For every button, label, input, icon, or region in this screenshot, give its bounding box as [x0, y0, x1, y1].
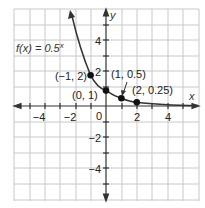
ytick-m4: −4	[88, 163, 101, 175]
curve-arrow-icon	[68, 10, 75, 19]
xtick-m2: −2	[64, 111, 77, 123]
x-axis-left-arrow-icon	[14, 104, 21, 109]
point-0-1	[103, 87, 110, 94]
xtick-2: 2	[134, 111, 140, 123]
function-label: f(x) = 0.5x	[16, 41, 65, 54]
x-axis-label: x	[188, 90, 195, 102]
point-label-1-0.5: (1, 0.5)	[111, 68, 146, 80]
point-label-0-1: (0, 1)	[72, 89, 98, 101]
y-axis-label: y	[109, 9, 117, 21]
point-label-neg1-2: (−1, 2)	[55, 70, 87, 82]
xtick-4: 4	[165, 111, 171, 123]
point-1-0.5	[118, 95, 125, 102]
ytick-m2: −2	[88, 132, 101, 144]
ytick-2: 2	[95, 66, 101, 78]
point-neg1-2	[87, 72, 94, 79]
xtick-m4: −4	[33, 111, 46, 123]
ytick-4: 4	[95, 35, 101, 47]
graph: −4 −2 0 2 4 4 2 −2 −4 x y f(x) = 0.5x (−…	[0, 0, 205, 208]
origin-label: 0	[96, 110, 102, 122]
point-2-0.25	[134, 99, 141, 106]
y-axis-up-arrow-icon	[104, 9, 109, 16]
point-label-2-0.25: (2, 0.25)	[132, 84, 173, 96]
